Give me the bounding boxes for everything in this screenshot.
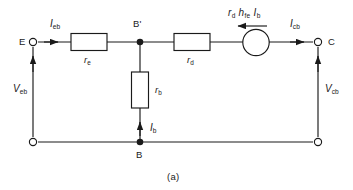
source-hfe-subscript: fe [244,12,250,19]
resistor-rd-body [174,34,210,51]
voltage-veb-symbol: V [13,83,20,94]
current-ib-label: Ib [150,123,157,133]
current-ieb-label: Ieb [50,19,60,29]
node-b-prime-dot [137,39,144,46]
collector-terminal-label: C [328,37,335,47]
resistor-rb-label: rb [155,85,162,95]
voltage-vcb-label: Vcb [325,84,339,94]
current-icb-subscript: cb [293,23,300,30]
emitter-terminal-circle[interactable] [29,38,36,45]
resistor-re-body [71,34,107,51]
resistor-rb-subscript: b [158,89,162,96]
current-ieb-subscript: eb [53,23,61,30]
voltage-veb-label: Veb [13,84,27,94]
resistor-rd-subscript: d [190,59,194,66]
source-term-ib: Ib [254,7,261,18]
figure-caption: (a) [167,171,180,182]
resistor-re-label: re [84,55,91,65]
collector-terminal-circle[interactable] [314,38,321,45]
node-b-prime-label: B' [133,19,142,29]
voltage-vcb-subscript: cb [332,88,339,95]
node-b-label: B [136,150,143,160]
node-b-dot [137,139,144,146]
emitter-terminal-label: E [19,37,26,47]
collector-base-terminal-circle[interactable] [314,138,321,145]
source-term-rd: rd [228,7,236,18]
source-rd-subscript: d [232,12,236,19]
voltage-vcb-symbol: V [325,83,332,94]
circuit-figure: E C B' B Ieb Icb Ib Veb Vcb re rd rb rdh… [0,0,353,190]
source-term-hfe: hfe [239,7,251,18]
source-ib-subscript: b [257,12,261,19]
emitter-base-terminal-circle[interactable] [29,138,36,145]
resistor-rd-label: rd [187,55,194,65]
resistor-re-subscript: e [87,59,91,66]
dependent-source-label: rdhfeIb [228,8,261,18]
resistor-rb-body [132,72,149,108]
current-ib-subscript: b [153,127,157,134]
current-icb-label: Icb [290,19,300,29]
current-source-circle [243,29,269,55]
voltage-veb-subscript: eb [20,88,28,95]
